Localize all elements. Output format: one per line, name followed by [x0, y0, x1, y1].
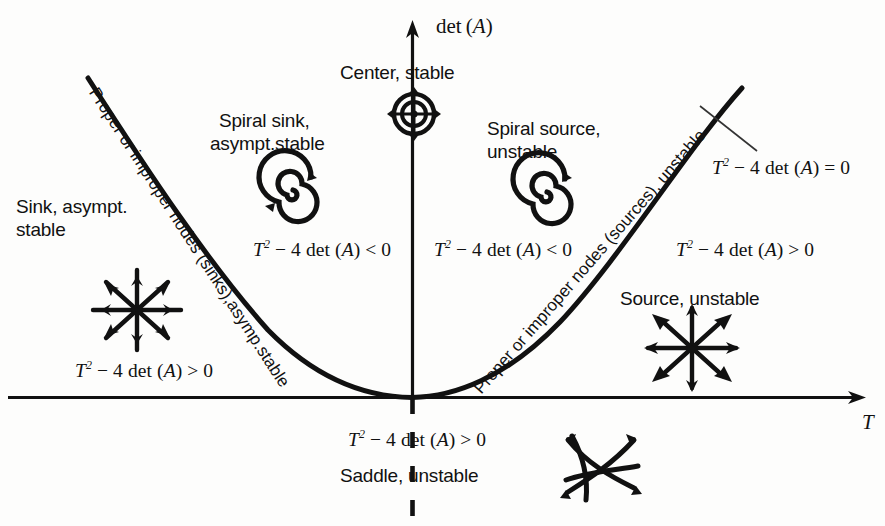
saddle-icon: [560, 434, 642, 500]
horizontal-axis-label: T: [862, 410, 874, 435]
vertical-axis-label-text: det (A): [436, 14, 493, 38]
eq-lead: T: [253, 239, 264, 260]
eq-var: A: [801, 157, 813, 178]
vertical-axis-label: det (A): [436, 14, 493, 39]
spiral-sink-icon: [259, 151, 317, 222]
spiral-sink-label-line2: asympt.stable: [210, 133, 325, 155]
sink-label-line2: stable: [16, 219, 66, 241]
eq-rest: − 4 det (: [451, 239, 523, 260]
eq-lead: T: [75, 360, 86, 381]
eq-var: A: [523, 239, 535, 260]
sink-condition: T2 − 4 det (A) > 0: [75, 358, 213, 382]
saddle-label: Saddle, unstable: [340, 465, 478, 487]
eq-var: A: [342, 239, 354, 260]
eq-lead: T: [676, 239, 687, 260]
boundary-condition: T2 − 4 det (A) = 0: [712, 155, 850, 179]
center-icon: [387, 87, 441, 141]
saddle-condition: T2 − 4 det (A) > 0: [348, 427, 486, 451]
eq-rest: − 4 det (: [365, 429, 437, 450]
eq-var: A: [765, 239, 777, 260]
spiral-source-condition: T2 − 4 det (A) < 0: [434, 237, 572, 261]
eq-tail: ) > 0: [176, 360, 214, 381]
eq-var: A: [164, 360, 176, 381]
eq-tail: ) < 0: [535, 239, 573, 260]
sink-label-line1: Sink, asympt.: [16, 196, 127, 218]
spiral-sink-label-line1: Spiral sink,: [219, 110, 310, 132]
star-source-icon: [644, 304, 740, 392]
spiral-source-label-line2: unstable: [487, 141, 557, 163]
eq-lead: T: [712, 157, 723, 178]
eq-rest: − 4 det (: [693, 239, 765, 260]
eq-rest: − 4 det (: [270, 239, 342, 260]
eq-rest: − 4 det (: [92, 360, 164, 381]
eq-tail: ) = 0: [813, 157, 851, 178]
star-sink-icon: [93, 270, 181, 350]
trace-determinant-diagram: det (A) T Center, stable Spiral sink, as…: [0, 0, 885, 526]
source-label: Source, unstable: [620, 288, 759, 310]
eq-tail: ) > 0: [449, 429, 487, 450]
eq-rest: − 4 det (: [729, 157, 801, 178]
spiral-sink-condition: T2 − 4 det (A) < 0: [253, 237, 391, 261]
eq-tail: ) < 0: [354, 239, 392, 260]
eq-var: A: [437, 429, 449, 450]
eq-tail: ) > 0: [777, 239, 815, 260]
eq-lead: T: [434, 239, 445, 260]
source-condition: T2 − 4 det (A) > 0: [676, 237, 814, 261]
spiral-source-label-line1: Spiral source,: [487, 118, 600, 140]
center-label: Center, stable: [340, 62, 454, 84]
eq-lead: T: [348, 429, 359, 450]
